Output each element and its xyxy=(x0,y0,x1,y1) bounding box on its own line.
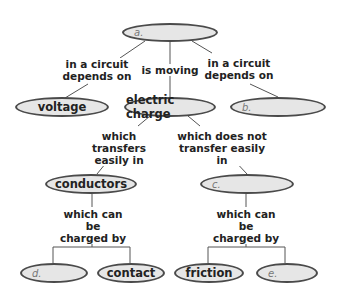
link-label-line: which can be xyxy=(55,208,131,232)
node-a-text: a. xyxy=(134,27,143,38)
link-label-a-b: in a circuit depends on xyxy=(204,57,274,81)
link-label-line: easily in xyxy=(76,154,162,166)
node-friction: friction xyxy=(174,263,244,283)
link-label-line: in a circuit xyxy=(204,57,274,69)
node-conductors: conductors xyxy=(45,174,137,194)
node-d: d. xyxy=(20,263,88,283)
node-c: c. xyxy=(200,174,294,194)
node-voltage: voltage xyxy=(15,97,109,117)
link-label-line: which transfers xyxy=(76,130,162,154)
link-label-conductors-children: which can be charged by xyxy=(55,208,131,244)
link-label-line: depends on xyxy=(62,70,132,82)
link-label-line: depends on xyxy=(204,69,274,81)
node-voltage-text: voltage xyxy=(38,100,87,114)
concept-map: a. voltage electric charge b. conductors… xyxy=(0,0,340,301)
node-d-text: d. xyxy=(32,268,42,279)
node-electric-charge: electric charge xyxy=(124,97,216,117)
link-label-line: which can be xyxy=(208,208,284,232)
link-label-line: charged by xyxy=(55,232,131,244)
node-b-text: b. xyxy=(242,102,252,113)
node-friction-text: friction xyxy=(186,266,233,280)
node-contact-text: contact xyxy=(107,266,155,280)
node-b: b. xyxy=(230,97,326,117)
link-label-a-charge: is moving xyxy=(140,64,200,76)
node-contact: contact xyxy=(97,263,165,283)
connector-lines xyxy=(0,0,340,301)
node-a: a. xyxy=(122,23,218,42)
link-label-line: transfer easily in xyxy=(174,142,270,166)
link-label-line: in a circuit xyxy=(62,58,132,70)
link-label-c-children: which can be charged by xyxy=(208,208,284,244)
link-label-a-voltage: in a circuit depends on xyxy=(62,58,132,82)
link-label-charge-conductors: which transfers easily in xyxy=(76,130,162,166)
node-electric-charge-text: electric charge xyxy=(126,93,214,121)
link-label-line: which does not xyxy=(174,130,270,142)
node-conductors-text: conductors xyxy=(55,177,127,191)
link-label-line: is moving xyxy=(140,64,200,76)
link-label-charge-c: which does not transfer easily in xyxy=(174,130,270,166)
link-label-line: charged by xyxy=(208,232,284,244)
node-e-text: e. xyxy=(268,268,277,279)
node-c-text: c. xyxy=(212,179,221,190)
node-e: e. xyxy=(256,263,318,283)
